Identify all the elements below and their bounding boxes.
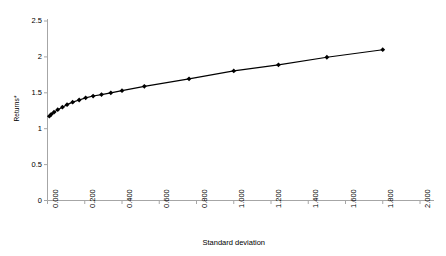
x-tick-label: 2.000 (423, 189, 432, 208)
data-series-group (47, 47, 385, 118)
x-tick-label: 1.200 (274, 189, 283, 208)
axes-group (44, 19, 434, 204)
plot-area (0, 0, 446, 256)
x-tick-label: 1.800 (386, 189, 395, 208)
x-tick-label: 1.600 (349, 189, 358, 208)
x-tick-label: 0.200 (88, 189, 97, 208)
x-tick-label: 0.000 (51, 189, 60, 208)
x-axis-title: Standard deviation (48, 238, 421, 247)
x-tick-label: 1.000 (237, 189, 246, 208)
y-tick-label: 0.5 (12, 160, 42, 169)
x-tick-label: 0.600 (162, 189, 171, 208)
y-tick-label: 0 (12, 196, 42, 205)
x-tick-label: 1.400 (311, 189, 320, 208)
y-tick-label: 2.5 (12, 16, 42, 25)
returns-vs-standard-deviation-chart: 00.511.522.5 0.0000.2000.4000.6000.8001.… (0, 0, 446, 256)
x-tick-label: 0.800 (200, 189, 209, 208)
y-axis-title: Returns* (13, 81, 20, 137)
x-tick-label: 0.400 (125, 189, 134, 208)
y-tick-label: 2 (12, 52, 42, 61)
